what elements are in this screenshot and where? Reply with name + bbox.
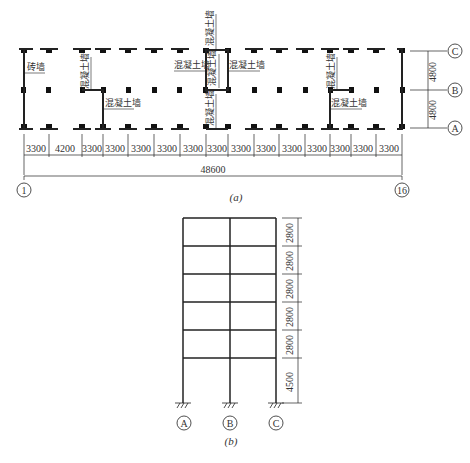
svg-text:2800: 2800 [284, 307, 295, 327]
bay-dimensions: 3300 4200 3300 3300 3300 3300 3300 3300 … [24, 134, 402, 180]
concrete-wall-label-v3: 混凝土墙 [206, 50, 217, 86]
fixed-supports [175, 403, 284, 408]
svg-text:3300: 3300 [26, 143, 46, 154]
brick-wall-label: 砖墙 [27, 61, 45, 72]
svg-text:3300: 3300 [231, 143, 251, 154]
story-dimensions: 2800 2800 2800 2800 2800 4500 [282, 218, 302, 403]
svg-text:A: A [180, 418, 188, 429]
concrete-wall-label-h3: 混凝土墙 [229, 59, 265, 70]
concrete-wall-label-v2: 混凝土墙 [204, 10, 215, 46]
frame-elevation: A B C 2800 2800 2800 2800 28 [175, 218, 302, 448]
concrete-wall-label-v4: 混凝土墙 [204, 90, 215, 126]
svg-text:3300: 3300 [379, 143, 399, 154]
svg-text:B: B [227, 418, 234, 429]
span-dimensions: 4800 4800 C B A [410, 44, 462, 135]
svg-text:B: B [452, 85, 459, 96]
svg-text:3300: 3300 [105, 143, 125, 154]
svg-text:3300: 3300 [207, 143, 227, 154]
svg-text:3300: 3300 [307, 143, 327, 154]
svg-text:4200: 4200 [55, 143, 75, 154]
svg-text:1: 1 [22, 185, 27, 196]
svg-text:2800: 2800 [284, 279, 295, 299]
concrete-wall-label-h2: 混凝土墙 [174, 59, 210, 70]
caption-b: (b) [225, 435, 238, 448]
concrete-wall-label-h1: 混凝土墙 [105, 97, 141, 108]
wall-labels: 砖墙 混凝土墙 混凝土墙 混凝土墙 混凝土墙 混凝土墙 混凝土墙 混凝土墙 混凝… [25, 10, 367, 128]
caption-a: (a) [230, 191, 243, 204]
concrete-wall-label-v1: 混凝土墙 [79, 53, 90, 89]
svg-text:C: C [273, 418, 280, 429]
svg-text:3300: 3300 [282, 143, 302, 154]
svg-text:3300: 3300 [82, 143, 102, 154]
svg-text:3300: 3300 [131, 143, 151, 154]
svg-text:3300: 3300 [330, 143, 350, 154]
svg-text:3300: 3300 [157, 143, 177, 154]
floor-plan: 砖墙 混凝土墙 混凝土墙 混凝土墙 混凝土墙 混凝土墙 混凝土墙 混凝土墙 混凝… [17, 10, 462, 204]
svg-text:16: 16 [397, 185, 407, 196]
concrete-wall-3-4 [82, 90, 103, 128]
svg-text:4800: 4800 [427, 100, 438, 120]
frame-axis-labels: A B C [177, 416, 283, 430]
svg-text:3300: 3300 [353, 143, 373, 154]
grid-bubbles-x: 1 16 [17, 183, 409, 197]
svg-text:2800: 2800 [284, 251, 295, 271]
svg-text:3300: 3300 [256, 143, 276, 154]
svg-text:3300: 3300 [183, 143, 203, 154]
total-length-dim: 48600 [201, 164, 226, 175]
svg-text:C: C [452, 46, 459, 57]
svg-text:4800: 4800 [427, 62, 438, 82]
svg-text:4500: 4500 [284, 372, 295, 392]
svg-text:2800: 2800 [284, 335, 295, 355]
structural-drawing: 砖墙 混凝土墙 混凝土墙 混凝土墙 混凝土墙 混凝土墙 混凝土墙 混凝土墙 混凝… [0, 0, 470, 463]
svg-text:A: A [451, 123, 459, 134]
concrete-wall-label-v5: 混凝土墙 [325, 53, 336, 89]
svg-text:2800: 2800 [284, 223, 295, 243]
concrete-wall-label-h4: 混凝土墙 [331, 97, 367, 108]
